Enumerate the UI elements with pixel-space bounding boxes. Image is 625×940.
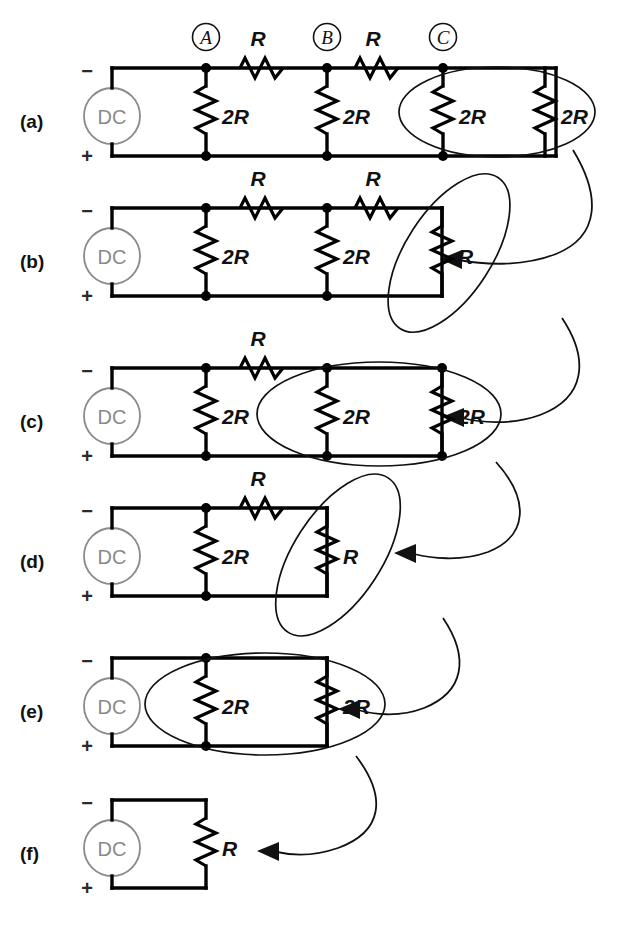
shunt-resistor-c-1-label: 2R [221,405,250,428]
junction-dot [201,151,211,161]
shunt-resistor-d-1: 2R [196,508,250,596]
panel-e-label: (e) [20,701,43,722]
series-resistor-d-1: R [240,467,283,518]
junction-dot [438,151,448,161]
junction-dot [201,203,211,213]
shunt-resistor-f-1-label: R [222,837,238,860]
series-resistor-c-1: R [240,327,283,378]
terminal-negative-label: − [81,500,93,522]
terminal-negative-label: − [81,360,93,382]
shunt-resistor-b-1: 2R [196,208,250,296]
shunt-resistor-d-2-label: R [343,545,359,568]
terminal-positive-label: + [81,735,93,757]
terminal-positive-label: + [81,585,93,607]
panel-f-label: (f) [20,843,39,864]
junction-dot [201,363,211,373]
series-resistor-b-2-label: R [365,167,381,190]
shunt-resistor-a-2: 2R [317,68,371,156]
shunt-resistor-c-3-label: 2R [457,405,486,428]
junction-dot [322,63,332,73]
series-resistor-c-1-label: R [250,327,266,350]
shunt-resistor-a-3: 2R [433,68,487,156]
series-resistor-a-1: R [240,27,283,78]
shunt-resistor-c-2: 2R [317,368,371,456]
shunt-resistor-a-4-label: 2R [560,105,589,128]
shunt-resistor-a-3-label: 2R [458,105,487,128]
junction-dot [201,63,211,73]
terminal-positive-label: + [81,145,93,167]
panel-d: (d) DC − + R 2R R [20,454,425,656]
panel-b-label: (b) [20,251,44,272]
terminal-negative-label: − [81,650,93,672]
shunt-resistor-a-1: 2R [196,68,250,156]
junction-dot [438,63,448,73]
series-resistor-b-2: R [355,167,398,218]
shunt-resistor-b-2: 2R [317,208,371,296]
shunt-resistor-b-1-label: 2R [221,245,250,268]
shunt-resistor-d-1-label: 2R [221,545,250,568]
dc-source-label: DC [98,246,127,268]
panel-d-label: (d) [20,551,44,572]
junction-dot [201,451,211,461]
shunt-resistor-b-2-label: 2R [342,245,371,268]
shunt-resistor-c-1: 2R [196,368,250,456]
junction-dot [322,291,332,301]
panel-a: (a) DC − + R R 2R [20,24,595,168]
shunt-resistor-c-2-label: 2R [342,405,371,428]
node-marker-label-c: C [437,27,450,48]
highlight-ellipse-b [364,154,534,352]
junction-dot [201,503,211,513]
dc-source-label: DC [98,546,127,568]
shunt-resistor-e-1: 2R [196,658,250,746]
panel-c-label: (c) [20,411,43,432]
terminal-negative-label: − [81,200,93,222]
terminal-positive-label: + [81,285,93,307]
junction-dot [201,291,211,301]
panel-a-label: (a) [20,111,43,132]
terminal-positive-label: + [81,877,93,899]
terminal-negative-label: − [81,60,93,82]
series-resistor-b-1: R [240,167,283,218]
circuit-reduction-figure: (a) DC − + R R 2R [0,0,625,940]
node-marker-label-a: A [198,27,212,48]
junction-dot [322,451,332,461]
dc-source-label: DC [98,406,127,428]
node-marker-label-b: B [321,27,333,48]
dc-source-label: DC [98,696,127,718]
series-resistor-a-2: R [355,27,398,78]
series-resistor-b-1-label: R [250,167,266,190]
shunt-resistor-c-3: 2R [432,368,486,456]
shunt-resistor-d-2: R [317,508,359,596]
arrow-head-icon [257,842,279,861]
junction-dot [322,203,332,213]
shunt-resistor-e-1-label: 2R [221,695,250,718]
shunt-resistor-a-4: 2R [535,68,589,156]
shunt-resistor-a-1-label: 2R [221,105,250,128]
node-marker-b: B [314,24,341,51]
shunt-resistor-b-3: R [432,208,474,296]
panel-f: (f) DC − + R [20,792,238,899]
shunt-resistor-b-3-label: R [458,245,474,268]
shunt-resistor-f-1: R [196,800,238,888]
panel-e: (e) DC − + 2R 2R [20,650,385,757]
terminal-negative-label: − [81,792,93,814]
reduction-arrow-c-to-d [394,462,520,563]
reduction-arrow-e-to-f [257,756,376,861]
dc-source-label: DC [98,106,127,128]
junction-dot [322,151,332,161]
node-marker-c: C [430,24,457,51]
series-resistor-a-2-label: R [365,27,381,50]
dc-source-label: DC [98,838,127,860]
shunt-resistor-e-2-label: 2R [342,695,371,718]
shunt-resistor-a-2-label: 2R [342,105,371,128]
arrow-head-icon [394,544,416,563]
junction-dot [201,591,211,601]
panel-c: (c) DC − + R 2R 2R [20,327,501,467]
terminal-positive-label: + [81,445,93,467]
series-resistor-d-1-label: R [250,467,266,490]
node-marker-a: A [193,24,220,51]
series-resistor-a-1-label: R [250,27,266,50]
